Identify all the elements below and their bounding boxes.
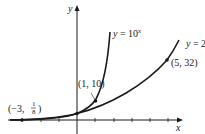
point-5-32 [165, 58, 169, 62]
curve-label-ten-power-x: yy = 10 = 10x [112, 27, 142, 39]
point-0-1 [75, 112, 79, 116]
point-1-10 [94, 99, 98, 103]
curve-ten-power-x [10, 32, 110, 120]
y-axis-label: y [67, 3, 73, 14]
exponential-graph-figure: x y yy = 10 = 10x y = 2x (1, 10) (5, 32)… [0, 0, 205, 134]
point-label-neg3-eighth: (−3, 1 8 ) [8, 100, 41, 116]
neg3-label-denominator: 8 [32, 108, 36, 116]
neg3-label-prefix: (−3, [8, 103, 24, 115]
point-neg3-eighth [20, 118, 24, 122]
neg3-label-suffix: ) [38, 103, 41, 115]
point-1-10-leader [91, 93, 95, 100]
point-label-1-10: (1, 10) [78, 78, 105, 90]
graph-canvas: x y yy = 10 = 10x y = 2x (1, 10) (5, 32)… [0, 0, 205, 134]
x-axis-label: x [175, 122, 181, 133]
point-label-5-32: (5, 32) [171, 57, 198, 69]
ten-power-label-exp: x [137, 27, 142, 35]
y-axis-arrow-icon [75, 5, 80, 11]
neg3-label-numerator: 1 [32, 100, 36, 108]
curve-label-two-power-x: y = 2x [185, 37, 205, 49]
